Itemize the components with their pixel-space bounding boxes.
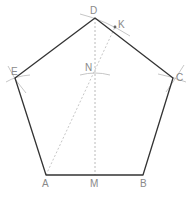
construction-line-ak — [46, 27, 115, 175]
label-c: C — [176, 72, 183, 83]
pentagon-diagram: D K E C N A M B — [0, 0, 192, 197]
label-k: K — [118, 19, 125, 30]
pentagon-outline — [15, 18, 173, 175]
point-k-marker — [114, 26, 117, 29]
label-a: A — [42, 178, 49, 189]
label-n: N — [85, 62, 92, 73]
label-b: B — [140, 178, 147, 189]
label-e: E — [11, 66, 18, 77]
label-m: M — [90, 178, 98, 189]
label-d: D — [90, 5, 97, 16]
